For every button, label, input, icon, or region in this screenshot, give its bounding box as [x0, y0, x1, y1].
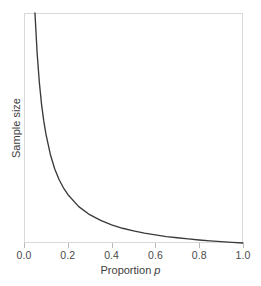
- x-axis-tick-label: 0.6: [135, 249, 175, 261]
- sample-size-curve: [35, 13, 243, 243]
- x-axis-tick-mark: [199, 243, 200, 248]
- chart-figure: 0.00.20.40.60.81.0 Proportion p Sample s…: [0, 0, 261, 286]
- x-axis-tick-mark: [243, 243, 244, 248]
- x-axis-label-text: Proportion: [101, 264, 152, 276]
- y-axis-label: Sample size: [10, 68, 22, 188]
- x-axis-tick-mark: [68, 243, 69, 248]
- x-axis-tick-label: 0.0: [4, 249, 44, 261]
- x-axis-tick-mark: [155, 243, 156, 248]
- x-axis-tick-label: 0.8: [179, 249, 219, 261]
- data-curve-svg: [24, 13, 243, 243]
- x-axis-tick-mark: [24, 243, 25, 248]
- x-axis-tick-label: 0.2: [48, 249, 88, 261]
- x-axis-label: Proportion p: [0, 264, 261, 276]
- x-axis-tick-label: 0.4: [92, 249, 132, 261]
- x-axis-tick-label: 1.0: [223, 249, 261, 261]
- x-axis-label-symbol: p: [154, 264, 160, 276]
- x-axis-tick-mark: [112, 243, 113, 248]
